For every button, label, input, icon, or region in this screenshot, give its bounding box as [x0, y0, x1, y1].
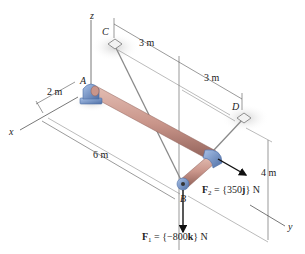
- point-a-label: A: [79, 75, 87, 86]
- dim-6m: 6 m: [93, 149, 109, 160]
- dim-ext-2m-a: [36, 101, 43, 113]
- bearing-a: [80, 84, 102, 104]
- dim-3m-right: 3 m: [204, 72, 220, 83]
- dim-ext-4m-top: [246, 128, 272, 142]
- force-f1-label: F1 = {−800k} N: [142, 231, 208, 244]
- force-f2-arrow: [218, 159, 246, 175]
- y-axis: [250, 205, 285, 226]
- z-axis-label: z: [89, 10, 94, 21]
- statics-diagram: z x y C A D B 3 m 3 m 2 m 6 m 4 m F2 = {…: [0, 0, 305, 254]
- dim-2m: 2 m: [47, 86, 63, 97]
- force-f2-label: F2 = {350j} N: [202, 184, 260, 197]
- point-b-label: B: [180, 193, 186, 204]
- y-axis-label: y: [287, 221, 293, 232]
- diagram-svg: z x y C A D B 3 m 3 m 2 m 6 m 4 m F2 = {…: [0, 0, 305, 254]
- x-axis-label: x: [8, 126, 14, 137]
- dim-line-top: [114, 24, 242, 99]
- point-d-label: D: [231, 101, 240, 112]
- dim-line-6m: [42, 121, 175, 199]
- guide-line-mid: [182, 90, 235, 121]
- joint-b: [177, 178, 189, 190]
- dim-3m-left: 3 m: [139, 37, 155, 48]
- dim-4m: 4 m: [261, 167, 277, 178]
- point-c-label: C: [102, 26, 109, 37]
- rod-main: [91, 86, 216, 161]
